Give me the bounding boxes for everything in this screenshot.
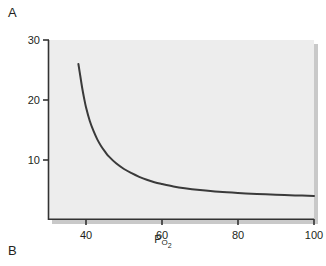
panel-label-a: A: [8, 6, 17, 19]
y-tick-label: 20: [14, 95, 40, 106]
chart-plot: 102030 406080100 Minute ventilation (L/m…: [48, 40, 314, 220]
x-axis-label: PO2: [0, 234, 326, 249]
y-tick-label: 30: [14, 35, 40, 46]
figure-container: A 102030 406080100 Minute ventilation (L…: [0, 0, 326, 266]
y-tick-label: 10: [14, 155, 40, 166]
plot-svg: [48, 40, 314, 220]
ventilation-curve: [78, 64, 314, 196]
x-axis-label-subscript: O2: [162, 238, 172, 247]
panel-label-b: B: [8, 244, 17, 257]
x-axis-label-main: P: [154, 233, 161, 245]
